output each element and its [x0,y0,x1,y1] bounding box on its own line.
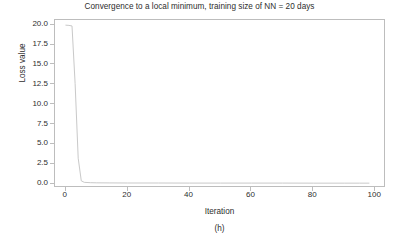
loss-curve-line [66,25,369,183]
figure-sub-caption: (h) [54,224,385,234]
y-tick-label: 15.0 [0,59,48,68]
y-tick-label: 20.0 [0,19,48,28]
x-tick-mark [374,187,375,191]
x-tick-label: 100 [354,190,394,199]
x-tick-mark [189,187,190,191]
y-tick-label: 17.5 [0,39,48,48]
x-tick-mark [127,187,128,191]
x-axis-label: Iteration [54,207,385,217]
y-tick-label: 12.5 [0,79,48,88]
chart-figure: Convergence to a local minimum, training… [0,0,399,243]
plot-area [54,19,385,187]
x-tick-label: 60 [230,190,270,199]
loss-curve-canvas [55,20,386,188]
x-tick-mark [65,187,66,191]
x-tick-label: 40 [169,190,209,199]
y-tick-label: 10.0 [0,99,48,108]
x-tick-label: 0 [45,190,85,199]
x-tick-label: 20 [107,190,147,199]
x-tick-label: 80 [292,190,332,199]
y-tick-label: 2.5 [0,158,48,167]
y-tick-label: 0.0 [0,178,48,187]
y-tick-label: 5.0 [0,138,48,147]
x-tick-mark [312,187,313,191]
chart-title: Convergence to a local minimum, training… [0,1,399,12]
x-tick-mark [250,187,251,191]
y-tick-label: 7.5 [0,119,48,128]
